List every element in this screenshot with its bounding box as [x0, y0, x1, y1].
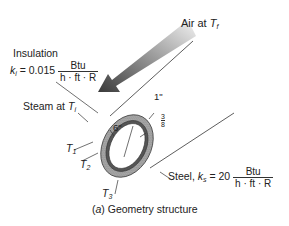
steel-label: Steel, ks = 20 Btu h · ft · R — [168, 166, 273, 189]
insulation-k-label: ki = 0.015 Btu h · ft · R — [10, 60, 98, 83]
steel-thickness-label: 3 8 — [161, 113, 165, 128]
insulation-unit-fraction: Btu h · ft · R — [58, 60, 98, 83]
air-label: Air at Tf — [181, 17, 218, 33]
T1-label: T1 — [66, 142, 76, 158]
diameter-label: 6" — [113, 122, 122, 134]
insulation-title: Insulation — [13, 47, 58, 59]
T2-label: T2 — [80, 158, 90, 174]
steam-label: Steam at Ti — [23, 100, 76, 116]
figure-caption: (a) Geometry structure — [92, 203, 198, 215]
T3-label: T3 — [102, 187, 112, 203]
steel-unit-fraction: Btu h · ft · R — [233, 166, 273, 189]
insulation-thickness-label: 1" — [154, 91, 163, 103]
